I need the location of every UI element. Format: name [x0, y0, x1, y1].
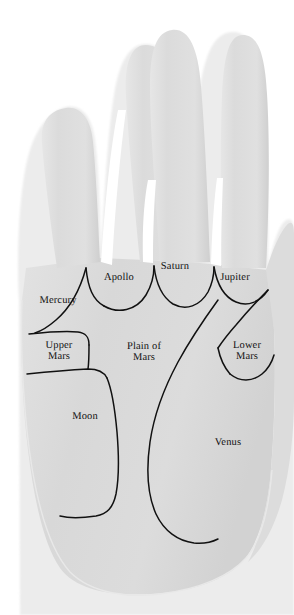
- palm-body: [21, 258, 275, 594]
- palm-illustration: [0, 0, 294, 615]
- finger-middle: [150, 30, 210, 264]
- hand-silhouette: [18, 30, 294, 615]
- finger-index: [221, 35, 269, 268]
- palmistry-diagram: Mercury Apollo Saturn Jupiter Upper Mars…: [0, 0, 294, 615]
